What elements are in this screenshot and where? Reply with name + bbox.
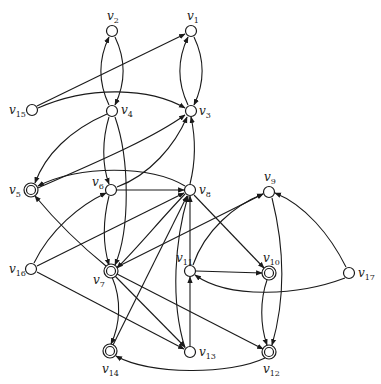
node-v4: v4	[107, 103, 133, 119]
node-v13: v13	[185, 345, 216, 361]
node-label: v7	[93, 273, 105, 289]
node-label: v13	[199, 345, 216, 361]
node-label: v8	[199, 183, 211, 199]
node-circle	[185, 266, 196, 277]
node-circle	[185, 347, 196, 358]
edge-v2-v4	[115, 37, 123, 105]
nodes-layer: v1v2v3v4v5v6v7v8v9v10v11v12v13v14v15v16v…	[9, 9, 375, 378]
edges-layer	[34, 34, 346, 371]
edge-v12-v14	[116, 356, 265, 371]
node-label: v15	[9, 103, 26, 119]
node-inner-ring	[106, 347, 115, 356]
node-label: v14	[102, 362, 119, 378]
node-v16: v16	[9, 262, 37, 278]
node-circle	[186, 26, 197, 37]
node-circle	[107, 26, 118, 37]
node-circle	[344, 268, 355, 279]
node-v6: v6	[92, 175, 117, 196]
graph-diagram: v1v2v3v4v5v6v7v8v9v10v11v12v13v14v15v16v…	[0, 0, 381, 384]
node-circle	[26, 264, 37, 275]
node-v8: v8	[185, 183, 211, 199]
node-circle	[27, 105, 38, 116]
node-label: v12	[263, 362, 280, 378]
edge-v7-v14	[111, 277, 119, 344]
node-v5: v5	[9, 183, 38, 199]
edge-v8-v10	[194, 195, 264, 268]
edge-v10-v12	[262, 280, 267, 345]
node-inner-ring	[265, 348, 274, 357]
edge-v1-v3	[194, 37, 202, 105]
node-label: v2	[107, 9, 119, 25]
edge-v17-v9	[275, 193, 346, 267]
node-v17: v17	[344, 266, 375, 282]
node-circle	[185, 185, 196, 196]
node-v7: v7	[93, 264, 118, 289]
node-v3: v3	[186, 104, 211, 120]
node-label: v4	[121, 103, 133, 119]
edge-v7-v13	[115, 276, 185, 347]
edge-v16-v13	[37, 272, 184, 349]
graph-canvas: v1v2v3v4v5v6v7v8v9v10v11v12v13v14v15v16v…	[0, 0, 381, 384]
node-v11: v11	[176, 251, 196, 277]
edge-v16-v6	[34, 193, 106, 263]
node-v10: v10	[262, 251, 280, 280]
node-inner-ring	[27, 186, 36, 195]
node-circle	[264, 187, 275, 198]
node-circle	[186, 106, 197, 117]
node-inner-ring	[265, 269, 274, 278]
edge-v7-v5	[35, 196, 106, 266]
node-label: v1	[187, 9, 199, 25]
edge-v8-v7	[117, 194, 185, 268]
node-label: v16	[9, 262, 26, 278]
edge-v15-v1	[37, 34, 185, 106]
node-label: v9	[264, 170, 276, 186]
node-v1: v1	[186, 9, 199, 37]
node-v9: v9	[264, 170, 276, 198]
node-label: v10	[263, 251, 280, 267]
node-v14: v14	[102, 344, 119, 378]
edge-v6-v3	[117, 117, 187, 187]
edge-v11-v10	[196, 271, 262, 273]
node-circle	[107, 106, 118, 117]
node-label: v3	[199, 104, 211, 120]
node-label: v17	[358, 266, 375, 282]
node-label: v5	[9, 183, 21, 199]
edge-v16-v8	[37, 193, 184, 266]
node-inner-ring	[107, 267, 116, 276]
node-v12: v12	[262, 345, 280, 378]
node-v2: v2	[107, 9, 119, 37]
edge-v4-v6	[104, 117, 109, 184]
edge-v4-v5	[35, 114, 107, 183]
edge-v3-v1	[180, 37, 188, 105]
node-label: v6	[92, 175, 104, 191]
edge-v8-v3	[190, 117, 195, 184]
node-v15: v15	[9, 103, 38, 119]
node-circle	[106, 185, 117, 196]
